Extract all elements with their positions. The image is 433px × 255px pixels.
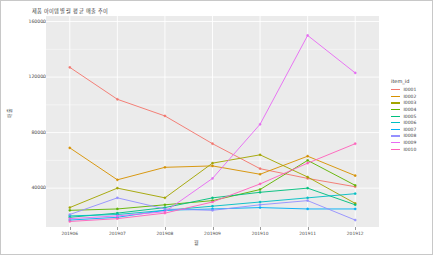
x-tick-mark — [70, 227, 71, 230]
legend-item[interactable]: I0003 — [390, 100, 433, 107]
x-tick-label: 201907 — [97, 231, 137, 236]
legend-item[interactable]: I0002 — [390, 93, 433, 100]
legend-label: I0001 — [404, 87, 417, 92]
x-tick-mark — [355, 227, 356, 230]
x-tick-label: 201906 — [50, 231, 90, 236]
legend-item[interactable]: I0008 — [390, 133, 433, 140]
legend-item[interactable]: I0005 — [390, 113, 433, 120]
legend-line-icon — [391, 116, 400, 117]
legend-line-icon — [391, 129, 400, 130]
legend-color-swatch — [390, 133, 401, 140]
legend-item[interactable]: I0004 — [390, 106, 433, 113]
y-axis: 4000080000120000160000 — [1, 1, 46, 227]
y-tick-label: 80000 — [12, 130, 46, 135]
legend-line-icon — [391, 109, 400, 110]
x-tick-label: 201908 — [145, 231, 185, 236]
legend-label: I0010 — [404, 147, 417, 152]
legend-line-icon — [391, 89, 400, 90]
y-tick-label: 40000 — [12, 185, 46, 190]
legend-label: I0004 — [404, 107, 417, 112]
y-tick-mark — [42, 77, 45, 78]
legend-label: I0002 — [404, 94, 417, 99]
x-tick-mark — [308, 227, 309, 230]
legend-line-icon — [391, 96, 400, 97]
legend-label: I0008 — [404, 133, 417, 138]
legend: item_id I0001I0002I0003I0004I0005I0006I0… — [390, 78, 433, 152]
legend-label: I0003 — [404, 100, 417, 105]
x-tick-label: 201910 — [240, 231, 280, 236]
legend-line-icon — [391, 122, 400, 123]
legend-color-swatch — [390, 126, 401, 133]
legend-item[interactable]: I0007 — [390, 126, 433, 133]
x-tick-label: 201909 — [193, 231, 233, 236]
legend-line-icon — [391, 149, 400, 150]
legend-color-swatch — [390, 146, 401, 153]
legend-color-swatch — [390, 106, 401, 113]
plot-area — [46, 16, 379, 227]
legend-title: item_id — [390, 78, 433, 84]
x-tick-mark — [260, 227, 261, 230]
legend-color-swatch — [390, 87, 401, 94]
x-axis: 2019062019072019082019092019102019112019… — [46, 227, 379, 241]
legend-label: I0005 — [404, 114, 417, 119]
legend-label: I0009 — [404, 140, 417, 145]
y-tick-mark — [42, 133, 45, 134]
x-tick-mark — [165, 227, 166, 230]
x-tick-label: 201911 — [288, 231, 328, 236]
legend-color-swatch — [390, 139, 401, 146]
chart-screenshot: 제품 아이템별 월 평균 매출 추이 매출 월 4000080000120000… — [0, 0, 433, 255]
x-tick-label: 201912 — [335, 231, 375, 236]
x-tick-mark — [117, 227, 118, 230]
legend-color-swatch — [390, 113, 401, 120]
legend-item[interactable]: I0010 — [390, 146, 433, 153]
legend-item[interactable]: I0006 — [390, 119, 433, 126]
legend-line-icon — [391, 135, 400, 136]
legend-color-swatch — [390, 93, 401, 100]
legend-items: I0001I0002I0003I0004I0005I0006I0007I0008… — [390, 87, 433, 153]
plot-panel — [46, 16, 379, 227]
legend-color-swatch — [390, 119, 401, 126]
legend-label: I0006 — [404, 120, 417, 125]
legend-item[interactable]: I0001 — [390, 87, 433, 94]
legend-line-icon — [391, 142, 400, 143]
y-tick-mark — [42, 22, 45, 23]
y-tick-label: 160000 — [12, 19, 46, 24]
y-tick-mark — [42, 188, 45, 189]
legend-color-swatch — [390, 100, 401, 107]
y-tick-label: 120000 — [12, 74, 46, 79]
legend-item[interactable]: I0009 — [390, 139, 433, 146]
legend-label: I0007 — [404, 127, 417, 132]
legend-line-icon — [391, 102, 400, 103]
x-tick-mark — [213, 227, 214, 230]
